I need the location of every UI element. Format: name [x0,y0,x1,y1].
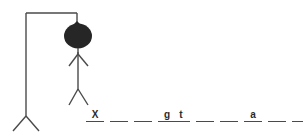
hangman-head [64,24,92,49]
gallows-base [13,116,39,131]
hangman-legs [69,89,88,105]
hangman-drawing [0,0,303,136]
